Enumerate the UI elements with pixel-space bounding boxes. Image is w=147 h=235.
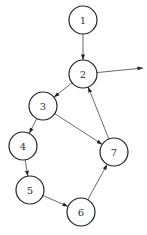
node-4: 4 bbox=[9, 132, 37, 160]
node-5: 5 bbox=[16, 176, 44, 204]
edge-2-to-3 bbox=[54, 83, 72, 98]
node-3: 3 bbox=[29, 92, 57, 120]
node-label: 5 bbox=[27, 185, 33, 196]
node-label: 3 bbox=[40, 101, 46, 112]
node-label: 6 bbox=[78, 207, 84, 218]
edge-7-to-2 bbox=[88, 87, 109, 139]
node-label: 7 bbox=[111, 147, 117, 158]
edge-4-to-5 bbox=[25, 160, 28, 176]
node-label: 4 bbox=[20, 141, 26, 152]
edge-2-to-exit bbox=[97, 68, 143, 73]
edge-6-to-7 bbox=[88, 164, 108, 199]
nodes: 1234567 bbox=[9, 6, 128, 226]
node-6: 6 bbox=[67, 198, 95, 226]
node-1: 1 bbox=[69, 6, 97, 34]
flow-graph: 1234567 bbox=[0, 0, 147, 235]
edge-3-to-4 bbox=[29, 119, 36, 134]
edge-5-to-6 bbox=[43, 196, 68, 207]
node-label: 1 bbox=[80, 15, 86, 26]
node-2: 2 bbox=[69, 60, 97, 88]
edge-3-to-7 bbox=[55, 114, 103, 145]
node-7: 7 bbox=[100, 138, 128, 166]
node-label: 2 bbox=[80, 69, 86, 80]
